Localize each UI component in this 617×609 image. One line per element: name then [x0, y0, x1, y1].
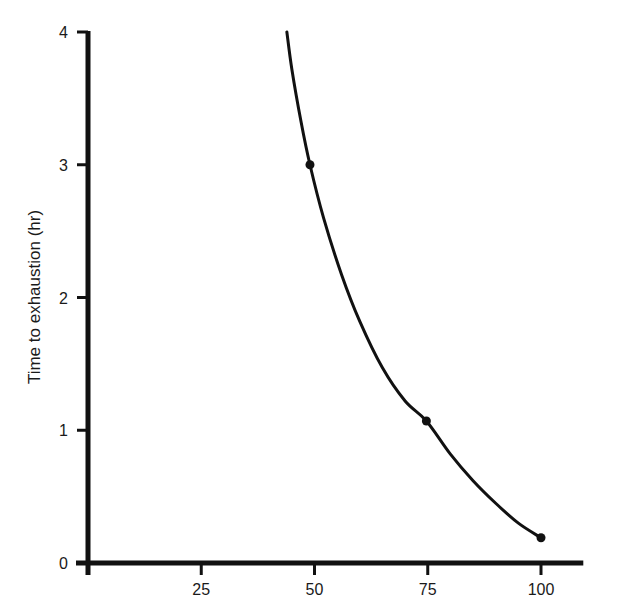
- y-tick-label: 2: [59, 290, 68, 307]
- series: [287, 32, 546, 542]
- tick-labels: 01234255075100: [59, 24, 554, 598]
- data-point: [422, 416, 431, 425]
- data-point: [305, 160, 314, 169]
- y-axis-title: Time to exhaustion (hr): [25, 210, 44, 384]
- x-tick-label: 50: [306, 581, 324, 598]
- x-tick-label: 25: [192, 581, 210, 598]
- y-tick-label: 1: [59, 422, 68, 439]
- data-point: [537, 533, 546, 542]
- x-tick-label: 100: [528, 581, 555, 598]
- x-tick-label: 75: [419, 581, 437, 598]
- ticks: [77, 32, 541, 575]
- y-tick-label: 0: [59, 555, 68, 572]
- y-tick-label: 3: [59, 157, 68, 174]
- chart: 01234255075100 Time to exhaustion (hr): [0, 0, 617, 609]
- y-tick-label: 4: [59, 24, 68, 41]
- axes: [76, 31, 583, 575]
- series-line-fitted-curve: [287, 32, 541, 538]
